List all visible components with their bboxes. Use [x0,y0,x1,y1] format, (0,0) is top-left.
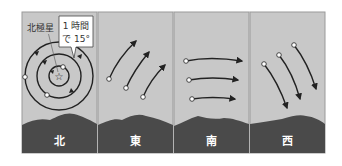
direction-label-north: 北 [54,134,65,148]
direction-label-west: 西 [282,135,293,148]
polaris-label: 北極星 [27,22,54,33]
panel-south: 南 [174,12,249,153]
start-point [262,62,267,67]
start-point [124,86,129,91]
polaris-star-icon: ☆ [55,71,64,82]
star-motion-diagram: ☆ 北極星 1 時間 で 15° 北 東 南 [0,0,342,166]
callout-line-1: 1 時間 [63,21,90,31]
start-point [61,65,66,70]
start-point [187,78,192,83]
panel-east: 東 [98,12,173,153]
start-point [292,43,297,48]
direction-label-east: 東 [130,134,142,148]
direction-label-south: 南 [206,134,217,148]
callout-line-2: で 15° [62,34,90,44]
start-point [277,53,282,58]
start-point [45,93,50,98]
start-point [184,59,189,64]
start-point [141,95,146,100]
panel-west: 西 [250,12,325,153]
start-point [107,77,112,82]
start-point [190,97,195,102]
panel-north: ☆ 北極星 1 時間 で 15° 北 [22,12,97,153]
start-point [23,75,28,80]
